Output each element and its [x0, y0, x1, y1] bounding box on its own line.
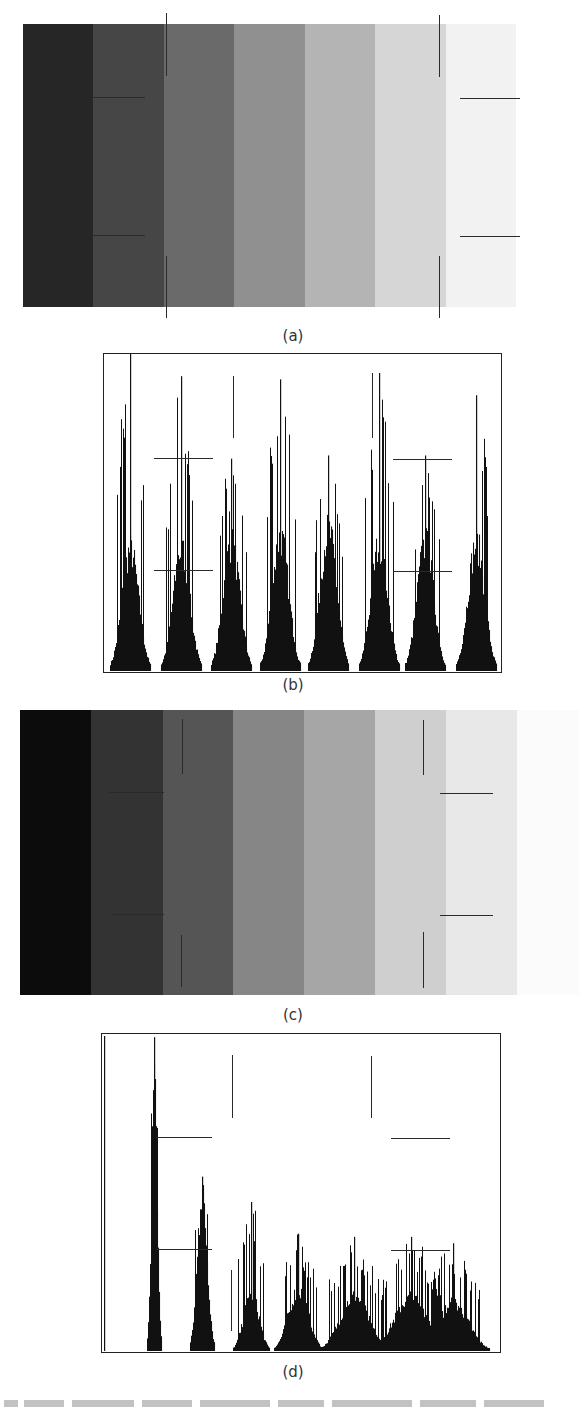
crop-mark-a-6 [88, 235, 145, 236]
caption-c: (c) [263, 1006, 323, 1024]
panel-a-noisy-gray-wedge [23, 24, 516, 307]
caption-a: (a) [263, 327, 323, 345]
wedge-c-band-3 [163, 710, 233, 995]
wedge-a-band-4 [234, 24, 304, 307]
crop-mark-b-2 [372, 373, 373, 438]
wedge-c-band-6 [375, 710, 446, 995]
wedge-c-band-8 [517, 710, 579, 995]
wedge-c-band-7 [446, 710, 517, 995]
histogram-b-bars [104, 354, 503, 674]
crop-mark-d-7 [391, 1250, 450, 1251]
wedge-a-band-2 [93, 24, 163, 307]
crop-mark-a-8 [460, 236, 520, 237]
crop-mark-c-8 [440, 915, 493, 916]
crop-mark-b-5 [393, 459, 452, 460]
crop-mark-d-4 [156, 1137, 212, 1138]
histogram-d-bars [102, 1034, 502, 1354]
crop-mark-a-2 [439, 15, 440, 77]
wedge-c-band-5 [304, 710, 375, 995]
wedge-a-band-1 [23, 24, 93, 307]
crop-mark-a-5 [91, 97, 145, 98]
crop-mark-d-5 [156, 1249, 212, 1250]
wedge-a-band-6 [375, 24, 445, 307]
crop-mark-d-6 [391, 1138, 450, 1139]
crop-mark-c-4 [423, 932, 424, 988]
wedge-a-band-7 [446, 24, 516, 307]
crop-mark-d-1 [232, 1055, 233, 1118]
crop-mark-a-4 [439, 256, 440, 318]
crop-mark-c-1 [182, 719, 183, 774]
wedge-a-band-5 [305, 24, 375, 307]
crop-mark-a-3 [166, 256, 167, 318]
crop-mark-d-2 [231, 1270, 232, 1331]
histogram-d [101, 1033, 501, 1353]
crop-mark-b-6 [393, 571, 452, 572]
crop-mark-b-1 [233, 376, 234, 438]
caption-b: (b) [263, 676, 323, 694]
crop-mark-c-5 [109, 792, 164, 793]
crop-mark-c-2 [181, 935, 182, 987]
wedge-a-band-3 [164, 24, 234, 307]
panel-c-transformed-gray-wedge [20, 710, 579, 995]
crop-mark-a-7 [460, 98, 520, 99]
crop-mark-b-4 [154, 570, 213, 571]
crop-mark-a-1 [166, 13, 167, 76]
wedge-c-band-1 [20, 710, 91, 995]
crop-mark-c-7 [440, 793, 493, 794]
clipped-caption-text [0, 1398, 579, 1407]
histogram-b [103, 353, 502, 673]
caption-d: (d) [263, 1363, 323, 1381]
crop-mark-b-3 [154, 458, 213, 459]
crop-mark-c-3 [423, 720, 424, 775]
wedge-c-band-4 [233, 710, 304, 995]
crop-mark-d-3 [371, 1056, 372, 1118]
crop-mark-c-6 [111, 914, 164, 915]
wedge-c-band-2 [91, 710, 163, 995]
